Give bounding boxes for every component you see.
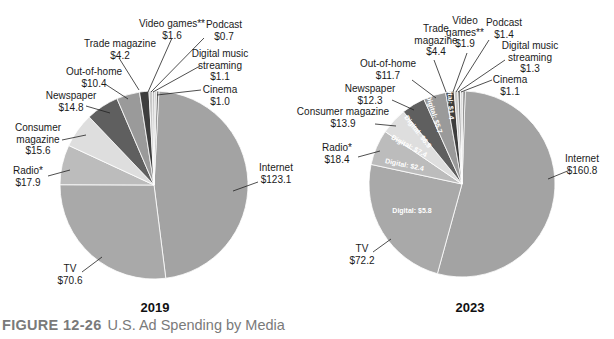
label-line: Video bbox=[452, 15, 478, 26]
label-line: $1.1 bbox=[500, 86, 520, 97]
label-line: Cinema bbox=[203, 84, 238, 95]
label-line: streaming bbox=[508, 52, 552, 63]
label-line: Consumer magazine bbox=[297, 106, 390, 117]
year-label-2019: 2019 bbox=[141, 300, 170, 315]
label-line: Podcast bbox=[206, 19, 242, 30]
label-consumer-magazine: Consumer magazine$13.9 bbox=[297, 106, 396, 129]
label-line: Podcast bbox=[486, 17, 522, 28]
label-line: Out-of-home bbox=[66, 66, 123, 77]
label-line: Digital music bbox=[502, 40, 559, 51]
pie-chart-2019 bbox=[60, 91, 248, 279]
label-line: $1.0 bbox=[210, 96, 230, 107]
label-radio: Radio*$18.4 bbox=[322, 142, 380, 165]
label-line: $11.7 bbox=[376, 70, 401, 81]
leader-line bbox=[82, 257, 102, 272]
pie-chart-2023: Digital: $5.8Digital: $2.4Digital: $7.4D… bbox=[369, 80, 555, 277]
label-line: Cinema bbox=[493, 74, 528, 85]
label-line: $1.9 bbox=[455, 38, 475, 49]
label-tv: TV$72.2 bbox=[349, 239, 391, 266]
label-line: TV bbox=[356, 243, 369, 254]
figure-title: U.S. Ad Spending by Media bbox=[108, 317, 285, 333]
year-label-2023: 2023 bbox=[456, 300, 485, 315]
ad-spending-charts: Digital: $5.8Digital: $2.4Digital: $7.4D… bbox=[0, 0, 614, 339]
leader-line bbox=[151, 38, 204, 92]
leader-line bbox=[461, 80, 492, 92]
label-line: Out-of-home bbox=[360, 58, 417, 69]
label-line: $17.9 bbox=[15, 177, 40, 188]
leader-line bbox=[434, 60, 446, 92]
label-line: $18.4 bbox=[324, 154, 349, 165]
label-line: Trade magazine bbox=[84, 38, 156, 49]
label-line: Radio* bbox=[13, 165, 43, 176]
label-line: Internet bbox=[259, 162, 293, 173]
label-line: Newspaper bbox=[345, 83, 396, 94]
figure-caption: FIGURE 12-26U.S. Ad Spending by Media bbox=[2, 317, 285, 333]
figure-number: FIGURE 12-26 bbox=[2, 317, 102, 333]
label-line: TV bbox=[64, 263, 77, 274]
leader-line bbox=[153, 66, 200, 92]
leader-line bbox=[412, 80, 436, 98]
label-internet: Internet$160.8 bbox=[548, 153, 599, 179]
label-line: magazine bbox=[16, 134, 60, 145]
leader-line bbox=[105, 84, 128, 99]
leader-line bbox=[392, 100, 414, 110]
label-line: $12.3 bbox=[357, 95, 382, 106]
label-line: $4.4 bbox=[426, 46, 446, 57]
label-line: $70.6 bbox=[57, 275, 82, 286]
label-line: $13.9 bbox=[330, 118, 355, 129]
label-line: Video games** bbox=[139, 18, 205, 29]
leader-line bbox=[373, 239, 391, 252]
label-line: $1.4 bbox=[494, 29, 514, 40]
label-line: $72.2 bbox=[349, 255, 374, 266]
label-line: $4.2 bbox=[110, 50, 130, 61]
label-line: $1.6 bbox=[162, 30, 182, 41]
label-line: Newspaper bbox=[46, 90, 97, 101]
label-line: Consumer bbox=[15, 122, 62, 133]
label-line: streaming bbox=[198, 60, 242, 71]
label-line: Radio* bbox=[322, 142, 352, 153]
label-line: Trade bbox=[423, 23, 449, 34]
label-line: $15.6 bbox=[25, 145, 50, 156]
label-line: $10.4 bbox=[81, 78, 106, 89]
label-line: $160.8 bbox=[567, 165, 598, 176]
digital-label-tv: Digital: $5.8 bbox=[392, 207, 431, 215]
label-line: $14.8 bbox=[58, 102, 83, 113]
label-line: $123.1 bbox=[261, 174, 292, 185]
label-line: Internet bbox=[565, 153, 599, 164]
label-line: $1.3 bbox=[520, 63, 540, 74]
pie-slice-internet bbox=[154, 91, 248, 278]
label-line: Digital music bbox=[192, 48, 249, 59]
label-line: $1.1 bbox=[210, 71, 230, 82]
label-line: magazine bbox=[414, 35, 458, 46]
label-line: $0.7 bbox=[214, 31, 234, 42]
label-tv: TV$70.6 bbox=[57, 257, 102, 286]
